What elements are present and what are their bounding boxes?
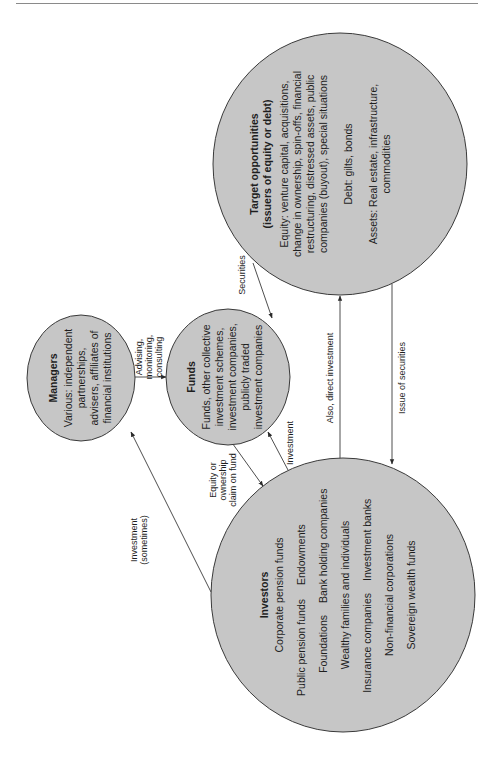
managers-line-4: financial institutions — [101, 332, 113, 423]
funds-line-5: investment companies — [252, 325, 264, 429]
target-assets-line-2: commodities — [380, 135, 392, 194]
label-advising-3: consulting — [154, 337, 164, 378]
managers-line-1: Various: independent — [62, 329, 74, 428]
label-issue-securities: Issue of securities — [397, 341, 407, 414]
label-equity-1: Equity or — [208, 462, 218, 498]
target-title-2: (issuers of equity or debt) — [261, 100, 273, 229]
investors-bank-holding: Bank holding companies — [317, 489, 329, 603]
investors-investment-banks: Investment banks — [361, 499, 373, 581]
label-investment-sometimes-1: Investment — [129, 517, 139, 562]
label-equity-2: ownership — [218, 459, 228, 500]
label-investment-sometimes-group: Investment (sometimes) — [129, 515, 149, 565]
label-advising-2: monitoring, — [144, 335, 154, 380]
label-equity-3: claim on fund — [228, 453, 238, 507]
target-title-1: Target opportunities — [248, 113, 260, 214]
managers-line-2: partnerships, — [75, 348, 87, 409]
label-securities: Securities — [237, 255, 247, 295]
target-assets-line-1: Assets: Real estate, infrastructure, — [367, 84, 379, 244]
investors-public-pension: Public pension funds — [295, 599, 307, 696]
managers-line-3: advisers, affiliates of — [88, 330, 100, 425]
label-investment: Investment — [285, 420, 295, 465]
investors-title: Investors — [258, 571, 270, 618]
investors-non-financial: Non-financial corporations — [383, 534, 395, 656]
label-advising-1: Advising, — [134, 339, 144, 376]
funds-line-3: investment companies, — [226, 323, 238, 430]
label-advising-group: Advising, monitoring, consulting — [134, 335, 164, 380]
label-issue-securities-group: Issue of securities — [397, 341, 407, 414]
target-equity-line-3: restructuring, distressed assets, public — [304, 75, 316, 254]
label-securities-group: Securities — [237, 255, 247, 295]
label-direct-investment-group: Also, direct investment — [325, 332, 335, 423]
label-investment-sometimes-2: (sometimes) — [139, 515, 149, 565]
target-equity-line-2: change in ownership, spin-offs, financia… — [291, 71, 303, 257]
label-direct-investment: Also, direct investment — [325, 332, 335, 423]
target-equity-line-4: companies (buyout), special situations — [317, 75, 329, 253]
investors-corporate-pension: Corporate pension funds — [273, 538, 285, 653]
funds-line-4: publicly traded — [239, 343, 251, 411]
label-equity-claim-group: Equity or ownership claim on fund — [208, 453, 238, 507]
investors-foundations: Foundations — [317, 615, 329, 673]
investors-sovereign-wealth: Sovereign wealth funds — [405, 540, 417, 649]
managers-title: Managers — [47, 353, 59, 402]
target-equity-line-1: Equity: venture capital, acquisitions, — [278, 81, 290, 248]
investors-wealthy-families: Wealthy families and individuals — [339, 521, 351, 670]
funds-line-1: Funds, other collective — [200, 324, 212, 429]
target-debt-line: Debt: gilts, bonds — [342, 123, 354, 204]
investors-endowments: Endowments — [295, 524, 307, 585]
investors-insurance: Insurance companies — [361, 593, 373, 693]
private-equity-flow-diagram: Target opportunities (issuers of equity … — [0, 0, 487, 760]
edge-investment-sometimes — [131, 432, 211, 592]
funds-title: Funds — [185, 361, 197, 393]
label-investment-group: Investment — [285, 420, 295, 465]
funds-line-2: investment schemes, — [213, 328, 225, 427]
